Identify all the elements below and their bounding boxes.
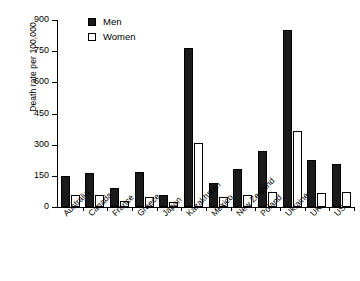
legend-label-women: Women <box>103 31 136 42</box>
bar-men <box>184 48 193 207</box>
chart-legend: Men Women <box>88 14 178 44</box>
legend-swatch-women-icon <box>88 33 96 41</box>
y-axis-tick-label: 600 <box>34 76 49 87</box>
y-axis-tick-450: 450 <box>52 114 57 115</box>
bar-men <box>233 169 242 207</box>
bar-group <box>84 20 109 207</box>
y-axis-tick-900: 900 <box>52 20 57 21</box>
legend-item-men: Men <box>88 14 178 29</box>
y-axis-tick-600: 600 <box>52 82 57 83</box>
legend-item-women: Women <box>88 29 178 44</box>
bar-group <box>183 20 208 207</box>
bar-men <box>332 164 341 207</box>
bar-group <box>208 20 233 207</box>
y-axis-tick-300: 300 <box>52 145 57 146</box>
bar-group <box>282 20 307 207</box>
bar-group <box>109 20 134 207</box>
y-axis-tick-label: 300 <box>34 139 49 150</box>
bar-group <box>60 20 85 207</box>
legend-swatch-men-icon <box>88 18 96 26</box>
bar-group <box>158 20 183 207</box>
bar-chart-figure: Death rate per 100,000 01503004506007509… <box>0 0 360 281</box>
plot-area: 0150300450600750900 <box>57 20 353 207</box>
bar-men <box>283 30 292 207</box>
y-axis-tick-label: 150 <box>34 170 49 181</box>
bar-men <box>307 160 316 207</box>
x-axis-tick-labels: AustraliaCanadaFranceGreeceJapanKazakhst… <box>57 207 360 281</box>
legend-label-men: Men <box>103 16 121 27</box>
y-axis-tick-label: 0 <box>44 201 49 212</box>
bar-group <box>232 20 257 207</box>
y-axis-tick-label: 450 <box>34 108 49 119</box>
y-axis-tick-750: 750 <box>52 51 57 52</box>
bar-group <box>331 20 356 207</box>
bar-series-container <box>58 20 354 207</box>
bar-group <box>134 20 159 207</box>
bar-men <box>135 172 144 207</box>
y-axis-tick-150: 150 <box>52 176 57 177</box>
y-axis-tick-label: 750 <box>34 45 49 56</box>
y-axis-tick-label: 900 <box>34 14 49 25</box>
bar-group <box>306 20 331 207</box>
